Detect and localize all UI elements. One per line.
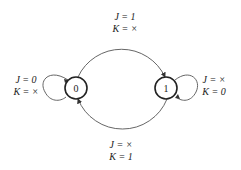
- self-loop-1-label-j: J = ×: [203, 74, 226, 85]
- self-loop-1-arrowhead-icon: [175, 94, 180, 99]
- state-1: 1: [155, 77, 177, 99]
- state-0: 0: [65, 77, 87, 99]
- self-loop-0-label-j: J = 0: [15, 74, 36, 85]
- transition-1-to-0-label-k: K = 1: [108, 151, 132, 162]
- self-loop-0-label-k: K = ×: [12, 86, 38, 97]
- transition-1-to-0-arc: [78, 99, 167, 129]
- transition-0-to-1-label-j: J = 1: [114, 11, 135, 22]
- transition-0-to-1-arc: [78, 49, 165, 77]
- transition-1-to-0-label-j: J = ×: [110, 139, 133, 150]
- state-1-label: 1: [164, 83, 169, 94]
- state-diagram: 0 1 J = 1 K = × J = 0 K = × J = × K = 0 …: [0, 0, 241, 170]
- self-loop-1-label-k: K = 0: [201, 86, 225, 97]
- transition-0-to-1-label-k: K = ×: [111, 23, 137, 34]
- state-0-label: 0: [74, 83, 79, 94]
